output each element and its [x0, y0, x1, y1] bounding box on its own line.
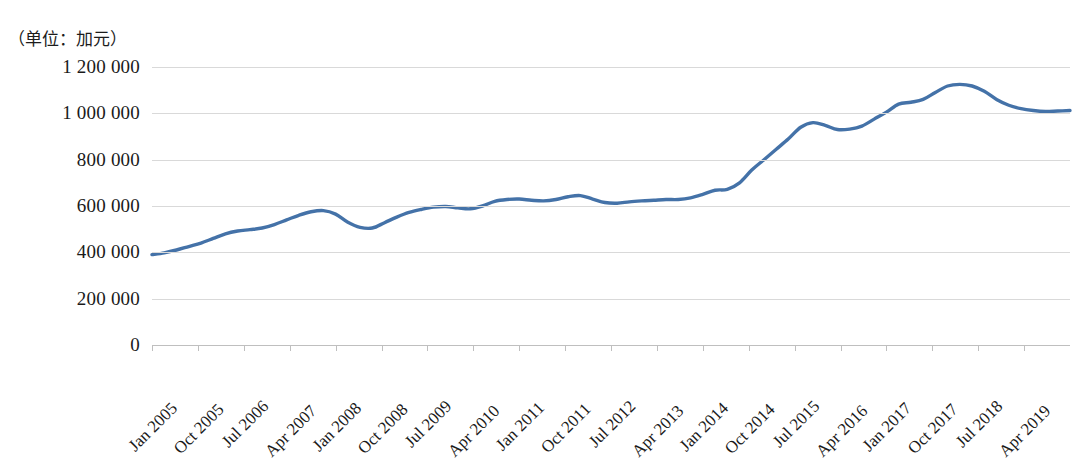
- gridline: [152, 252, 1070, 253]
- plot-area: [152, 67, 1070, 345]
- x-axis-tick-mark: [152, 345, 153, 351]
- x-axis-tick-mark: [1024, 345, 1025, 351]
- x-axis-labels: Jan 2005Oct 2005Jul 2006Apr 2007Jan 2008…: [152, 352, 1070, 457]
- y-axis-tick-label: 1 000 000: [0, 103, 140, 122]
- gridline: [152, 67, 1070, 68]
- y-axis-tick-label: 0: [0, 335, 140, 354]
- x-axis-tick-mark: [290, 345, 291, 351]
- y-axis-tick-label: 200 000: [0, 289, 140, 308]
- x-axis-tick-mark: [886, 345, 887, 351]
- x-axis-ticks: [152, 345, 1070, 352]
- x-axis-tick-mark: [795, 345, 796, 351]
- gridline: [152, 299, 1070, 300]
- x-axis-tick-mark: [703, 345, 704, 351]
- y-axis-tick-label: 1 200 000: [0, 57, 140, 76]
- y-axis-tick-label: 400 000: [0, 242, 140, 261]
- x-axis-tick-mark: [611, 345, 612, 351]
- x-axis-tick-mark: [841, 345, 842, 351]
- x-axis-tick-mark: [749, 345, 750, 351]
- x-axis-tick-mark: [978, 345, 979, 351]
- x-axis-tick-mark: [932, 345, 933, 351]
- gridline: [152, 113, 1070, 114]
- unit-caption: （单位：加元）: [8, 29, 127, 49]
- x-axis-tick-mark: [336, 345, 337, 351]
- x-axis-tick-mark: [427, 345, 428, 351]
- series-line-path: [152, 84, 1070, 254]
- x-axis-tick-mark: [382, 345, 383, 351]
- x-axis-tick-mark: [657, 345, 658, 351]
- y-axis-tick-label: 800 000: [0, 150, 140, 169]
- gridline: [152, 206, 1070, 207]
- x-axis-tick-mark: [198, 345, 199, 351]
- x-axis-tick-mark: [519, 345, 520, 351]
- x-axis-tick-label: Apr 2019: [1042, 356, 1090, 414]
- x-axis-tick-mark: [473, 345, 474, 351]
- x-axis-tick-mark: [565, 345, 566, 351]
- x-axis-tick-mark: [244, 345, 245, 351]
- y-axis-tick-label: 600 000: [0, 196, 140, 215]
- gridline: [152, 160, 1070, 161]
